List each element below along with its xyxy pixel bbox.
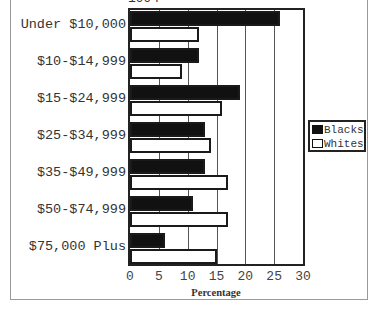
bar-whites (130, 101, 222, 116)
category-label: $15-$24,999 (37, 91, 126, 106)
category-label: $75,000 Plus (29, 239, 126, 254)
gridline (274, 10, 275, 264)
bar-blacks (130, 159, 205, 174)
x-tick-label: 5 (155, 269, 163, 284)
x-tick-label: 15 (209, 269, 225, 284)
category-label: $35-$49,999 (37, 165, 126, 180)
legend: Blacks Whites (308, 120, 366, 152)
x-tick-label: 30 (295, 269, 311, 284)
legend-item-whites: Whites (312, 137, 364, 150)
bar-whites (130, 212, 228, 227)
x-tick-label: 0 (126, 269, 134, 284)
chart-title: 1994 (128, 0, 159, 6)
gridline (245, 10, 246, 264)
category-label: $25-$34,999 (37, 128, 126, 143)
category-label: $10-$14,999 (37, 54, 126, 69)
bar-blacks (130, 122, 205, 137)
bar-blacks (130, 85, 240, 100)
x-tick-label: 20 (238, 269, 254, 284)
bar-blacks (130, 48, 199, 63)
bar-blacks (130, 233, 165, 248)
bar-blacks (130, 196, 193, 211)
legend-item-blacks: Blacks (312, 123, 364, 136)
black-swatch-icon (312, 125, 323, 134)
bar-whites (130, 27, 199, 42)
category-label: Under $10,000 (21, 17, 126, 32)
plot-area (128, 8, 305, 266)
bar-whites (130, 64, 182, 79)
x-axis-label: Percentage (191, 287, 240, 298)
x-tick-label: 10 (180, 269, 196, 284)
bar-whites (130, 249, 217, 264)
legend-label: Blacks (324, 124, 364, 136)
legend-label: Whites (324, 138, 364, 150)
white-swatch-icon (312, 139, 323, 148)
bar-whites (130, 175, 228, 190)
category-label: $50-$74,999 (37, 202, 126, 217)
x-tick-label: 25 (266, 269, 282, 284)
bar-blacks (130, 11, 280, 26)
bar-whites (130, 138, 211, 153)
